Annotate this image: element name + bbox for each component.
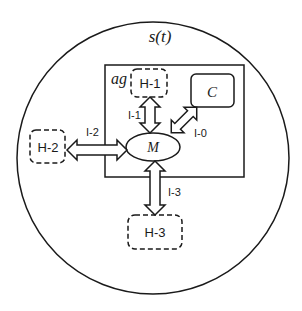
agent-label: ag — [111, 70, 127, 88]
interface-label-i2: I-2 — [86, 126, 99, 138]
human-label-h3: H-3 — [145, 225, 166, 240]
interface-label-i3: I-3 — [168, 186, 181, 198]
interface-arrow-i3 — [145, 161, 165, 215]
human-label-h1: H-1 — [140, 76, 161, 91]
human-label-h2: H-2 — [38, 140, 59, 155]
agent-environment-diagram: s(t) ag H-1 C M H-2 H-3 I-1 I-2 I-0 I-3 — [0, 0, 302, 311]
component-label: C — [207, 84, 218, 100]
interface-label-i1: I-1 — [128, 109, 141, 121]
interface-arrow-i2 — [67, 140, 127, 160]
environment-label: s(t) — [149, 27, 172, 46]
core-label: M — [146, 140, 160, 155]
interface-label-i0: I-0 — [194, 127, 207, 139]
interface-arrow-i1 — [140, 97, 160, 133]
